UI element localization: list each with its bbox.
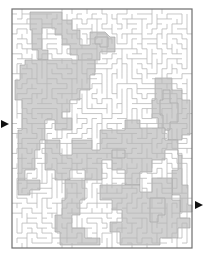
maze-puzzle	[0, 0, 203, 254]
solution-region	[112, 150, 125, 158]
